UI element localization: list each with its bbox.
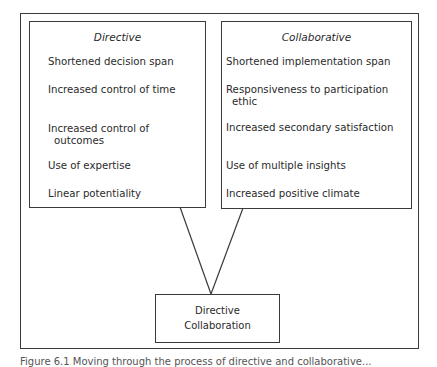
directive-collaboration-box: Directive Collaboration — [155, 294, 280, 343]
directive-item: Increased control of — [48, 123, 149, 136]
figure-caption: Figure 6.1 Moving through the process of… — [20, 356, 372, 367]
collaborative-item: Use of multiple insights — [226, 160, 346, 173]
directive-item: Use of expertise — [48, 160, 131, 173]
collaborative-item-continuation: ethic — [226, 96, 257, 109]
collaborative-title: Collaborative — [222, 31, 411, 43]
directive-title: Directive — [30, 31, 205, 43]
connector-right — [211, 208, 243, 294]
directive-box: Directive Shortened decision span Increa… — [29, 21, 206, 208]
directive-item: Increased control of time — [48, 84, 175, 97]
collaborative-item: Increased positive climate — [226, 188, 360, 201]
directive-item: Linear potentiality — [48, 188, 141, 201]
collaborative-item: Increased secondary satisfaction — [226, 122, 393, 135]
collaborative-item: Shortened implementation span — [226, 56, 390, 69]
directive-item-continuation: outcomes — [48, 135, 104, 148]
connector-left — [180, 207, 211, 294]
bottom-box-line2: Collaboration — [156, 318, 279, 333]
collaborative-item: Responsiveness to participation — [226, 84, 388, 97]
bottom-box-line1: Directive — [156, 303, 279, 318]
directive-item: Shortened decision span — [48, 56, 174, 69]
collaborative-box: Collaborative Shortened implementation s… — [221, 21, 412, 209]
